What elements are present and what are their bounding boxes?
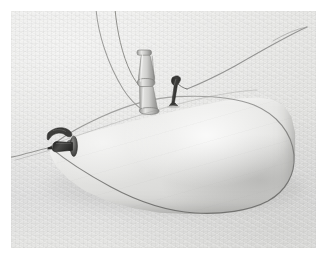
tube-collar-upper [137,50,152,55]
cord-left [95,11,144,111]
photograph [11,11,316,248]
mount-margin-top [0,0,327,11]
cord-right [177,27,307,89]
mount-margin-left [0,0,11,263]
bag-seam-line [59,90,257,142]
mount-margin-right [316,0,327,263]
nozzle-assembly [47,136,77,156]
rubber-tube [137,50,159,114]
metal-clip [167,76,180,108]
fittings-overlay [11,11,316,248]
mount-margin-bottom [0,248,327,263]
curved-hook [47,128,72,140]
screenshot-root [0,0,327,263]
